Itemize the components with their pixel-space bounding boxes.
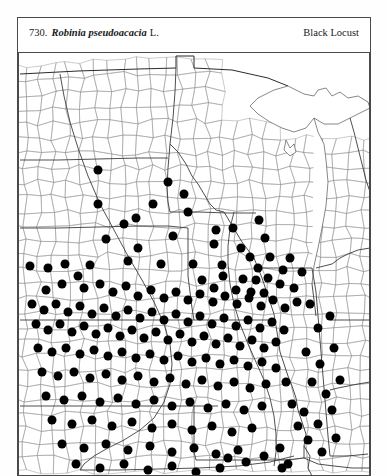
occurrence-dot: [166, 374, 175, 383]
occurrence-dot: [314, 324, 323, 333]
occurrence-dot: [314, 420, 323, 429]
occurrence-dot: [318, 448, 327, 457]
occurrence-dot: [28, 300, 37, 309]
occurrence-dot: [210, 284, 219, 293]
plate-caption: 730.Robinia pseudoacaciaL. Black Locust: [18, 18, 370, 52]
occurrence-dot: [168, 462, 177, 471]
occurrence-dot: [48, 416, 57, 425]
occurrence-dot: [80, 322, 89, 331]
occurrence-dot: [278, 464, 287, 473]
occurrence-dot: [48, 348, 57, 357]
occurrence-dot: [146, 442, 155, 451]
occurrence-dot: [182, 380, 191, 389]
occurrence-dot: [80, 284, 89, 293]
occurrence-dot: [220, 314, 229, 323]
occurrence-dot: [148, 308, 157, 317]
occurrence-dot: [258, 358, 267, 367]
occurrence-dot: [216, 360, 225, 369]
occurrence-dot: [212, 226, 221, 235]
occurrence-dot: [128, 418, 137, 427]
occurrence-dot: [104, 352, 113, 361]
occurrence-dot: [34, 344, 43, 353]
occurrence-dot: [246, 253, 255, 262]
occurrence-dot: [264, 274, 273, 283]
occurrence-dot: [76, 302, 85, 311]
occurrence-dot: [134, 292, 143, 301]
occurrence-dot: [266, 253, 275, 262]
occurrence-dot: [62, 344, 71, 353]
occurrence-dot: [70, 368, 79, 377]
occurrence-dot: [210, 240, 219, 249]
occurrence-dot: [172, 310, 181, 319]
occurrence-dot: [279, 266, 288, 275]
occurrence-dot: [276, 444, 285, 453]
occurrence-dot: [245, 294, 254, 303]
occurrence-dot: [102, 440, 111, 449]
occurrence-dot: [224, 334, 233, 343]
occurrence-dot: [256, 324, 265, 333]
occurrence-dot: [255, 216, 264, 225]
taxon-authority: L.: [147, 27, 159, 38]
occurrence-dot: [280, 326, 289, 335]
occurrence-dot: [246, 384, 255, 393]
occurrence-dot: [330, 344, 339, 353]
occurrence-dot: [58, 280, 67, 289]
occurrence-dot: [328, 406, 337, 415]
occurrence-dot: [128, 326, 137, 335]
occurrence-dot: [108, 422, 117, 431]
occurrence-dot: [147, 286, 156, 295]
occurrence-dot: [186, 398, 195, 407]
occurrence-dot: [332, 434, 341, 443]
occurrence-dot: [218, 261, 227, 270]
occurrence-dot: [124, 446, 133, 455]
occurrence-dot: [96, 464, 105, 473]
occurrence-dot: [239, 275, 248, 284]
occurrence-dot: [196, 290, 205, 299]
occurrence-dot: [261, 234, 270, 243]
occurrence-dot: [92, 330, 101, 339]
occurrence-dot: [248, 336, 257, 345]
occurrence-dot: [232, 286, 241, 295]
occurrence-dot: [120, 460, 129, 469]
occurrence-dot: [232, 322, 241, 331]
occurrence-dot: [304, 436, 313, 445]
occurrence-dot: [188, 426, 197, 435]
occurrence-dot: [293, 298, 302, 307]
occurrence-dot: [94, 166, 103, 175]
common-name: Black Locust: [303, 27, 359, 39]
occurrence-dot: [302, 348, 311, 357]
occurrence-dot: [164, 336, 173, 345]
occurrence-dot: [109, 288, 118, 297]
occurrence-dot: [144, 466, 153, 475]
occurrence-dot: [60, 396, 69, 405]
occurrence-dot: [116, 332, 125, 341]
occurrence-dot: [132, 354, 141, 363]
occurrence-dot: [326, 312, 335, 321]
occurrence-dot: [150, 396, 159, 405]
occurrence-dot: [230, 378, 239, 387]
occurrence-dot: [237, 244, 246, 253]
occurrence-dot: [74, 272, 83, 281]
occurrence-dot: [104, 324, 113, 333]
occurrence-dot: [236, 342, 245, 351]
occurrence-dot: [322, 390, 331, 399]
occurrence-dot: [102, 235, 111, 244]
occurrence-dot: [168, 448, 177, 457]
occurrence-dot: [260, 452, 269, 461]
occurrence-dot: [150, 378, 159, 387]
occurrence-dot: [96, 280, 105, 289]
occurrence-dot: [188, 358, 197, 367]
distribution-map: [18, 52, 370, 476]
occurrence-dot: [198, 276, 207, 285]
occurrence-dot: [86, 261, 95, 270]
occurrence-dot: [102, 370, 111, 379]
occurrence-dot: [306, 300, 315, 309]
occurrence-dot: [58, 440, 67, 449]
occurrence-dot: [262, 380, 271, 389]
occurrence-dot: [184, 208, 193, 217]
occurrence-dot: [88, 310, 97, 319]
occurrence-dot: [88, 416, 97, 425]
occurrence-dot: [120, 220, 129, 229]
occurrence-dot: [56, 320, 65, 329]
occurrence-dot: [174, 352, 183, 361]
